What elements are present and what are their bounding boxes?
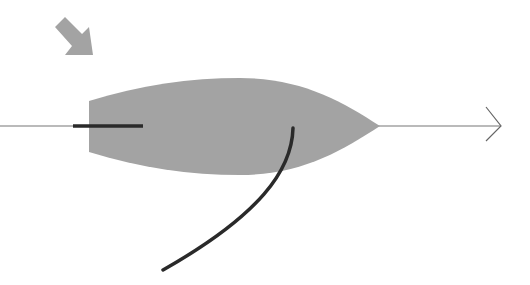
diagram-canvas xyxy=(0,0,530,285)
sailing-diagram xyxy=(0,0,530,285)
wind-arrow-icon xyxy=(55,17,93,55)
heading-arrowhead-icon xyxy=(486,107,501,141)
